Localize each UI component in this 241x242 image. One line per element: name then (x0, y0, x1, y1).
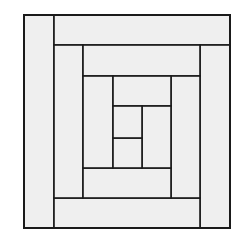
patch-top-strip-mid (83, 45, 200, 76)
patch-bottom-strip-outer (54, 198, 200, 228)
patch-left-strip-mid (54, 45, 83, 198)
patch-center-square (113, 106, 142, 138)
patch-right-strip-outer (200, 45, 230, 228)
patch-right-strip-mid (171, 76, 200, 198)
patch-left-strip-outer (24, 15, 54, 228)
patch-bottom-strip-mid (83, 168, 171, 198)
patch-left-strip-inner (83, 76, 113, 168)
patch-bottom-strip-inner (113, 138, 142, 168)
patch-top-strip-outer (54, 15, 230, 45)
patch-right-strip-inner (142, 106, 171, 168)
quilt-patches (24, 15, 230, 228)
log-cabin-diagram (0, 0, 241, 242)
patch-top-strip-inner (113, 76, 171, 106)
